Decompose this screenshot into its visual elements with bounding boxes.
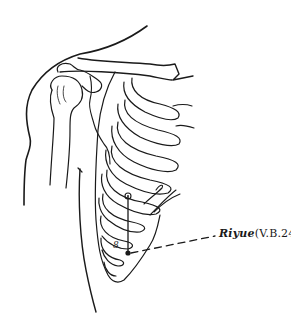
rib-cage-illustration	[0, 0, 291, 326]
acupoint-label: Riyue(V.B.24)	[219, 227, 291, 240]
rib-number-label: 8	[113, 240, 119, 250]
acupoint-riyue	[125, 250, 130, 255]
acupoint-name: Riyue	[219, 227, 255, 240]
arm-contour	[79, 169, 96, 312]
leader-line	[131, 236, 215, 253]
humerus	[51, 76, 83, 188]
clavicle	[78, 58, 193, 80]
acupoint-code: (V.B.24)	[255, 227, 291, 240]
anatomy-diagram: 8 Riyue(V.B.24)	[0, 0, 291, 326]
